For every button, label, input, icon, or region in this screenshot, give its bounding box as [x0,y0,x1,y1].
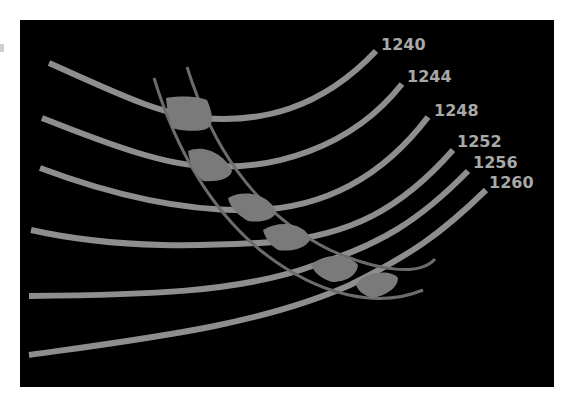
curve-label-1256: 1256 [473,153,518,172]
curve-1256 [29,171,468,296]
intersection-blob-1240 [166,97,212,131]
diagram-canvas: 1240 1244 1248 1252 1256 1260 [20,20,554,387]
intersection-blob-1256 [311,256,358,282]
curve-label-1240: 1240 [381,35,426,54]
curve-label-1260: 1260 [489,173,534,192]
page-edge-mark [0,44,4,52]
curve-label-1244: 1244 [407,67,452,86]
intersection-blob-1252 [263,224,310,251]
curve-label-1248: 1248 [434,101,479,120]
intersection-blob-1248 [228,193,276,221]
curve-label-1252: 1252 [457,132,502,151]
diagram-panel: 1240 1244 1248 1252 1256 1260 [20,20,554,387]
curve-1244 [42,84,402,166]
curve-1240 [49,51,376,119]
